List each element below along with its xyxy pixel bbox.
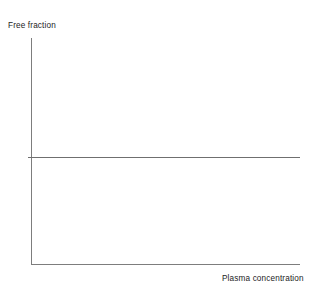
y-axis-line	[31, 38, 32, 265]
series-line-free-fraction	[28, 157, 300, 158]
plot-area	[0, 0, 316, 285]
free-fraction-vs-plasma-concentration-chart: Free fraction Plasma concentration	[0, 0, 316, 285]
x-axis-line	[31, 264, 300, 265]
x-axis-label: Plasma concentration	[222, 274, 304, 284]
